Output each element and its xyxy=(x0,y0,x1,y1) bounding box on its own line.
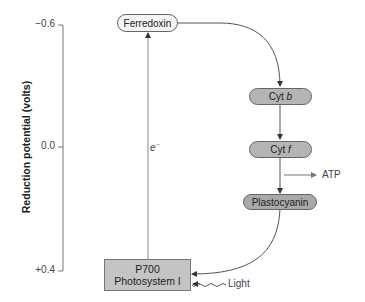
light-label: Light xyxy=(228,278,250,289)
cyt-b-prefix: Cyt xyxy=(269,91,287,102)
atp-label: ATP xyxy=(322,169,341,180)
electron-label: e− xyxy=(150,141,160,153)
plastocyanin-to-p700-arrow xyxy=(192,209,280,274)
cyt-b-letter: b xyxy=(287,91,293,102)
y-axis xyxy=(58,25,63,271)
ferredoxin-to-cytb-arrow xyxy=(178,23,280,86)
cyt-f-prefix: Cyt xyxy=(270,144,288,155)
tick-label-0-0: 0.0 xyxy=(25,140,55,151)
negative-charge-icon: − xyxy=(156,141,160,148)
node-cyt-b: Cyt b xyxy=(249,88,312,105)
node-plastocyanin: Plastocyanin xyxy=(243,194,317,210)
p700-label: P700 xyxy=(135,263,160,275)
node-cyt-f: Cyt f xyxy=(249,141,312,158)
node-ferredoxin: Ferredoxin xyxy=(117,14,178,32)
tick-label-neg-0-6: −0.6 xyxy=(25,18,55,29)
photosystem-label: Photosystem I xyxy=(114,275,181,287)
tick-label-pos-0-4: +0.4 xyxy=(25,264,55,275)
cyt-f-letter: f xyxy=(288,144,291,155)
node-p700-photosystem-i: P700 Photosystem I xyxy=(104,259,191,291)
